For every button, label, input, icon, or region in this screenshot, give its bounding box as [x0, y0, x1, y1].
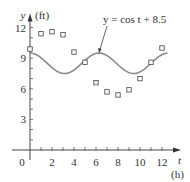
axes	[12, 14, 181, 161]
data-point	[160, 46, 164, 50]
data-point	[116, 93, 120, 97]
y-tick-label: 3	[21, 113, 27, 125]
y-axis-arrow-icon	[28, 14, 33, 22]
x-axis-unit: (h)	[171, 168, 184, 181]
y-tick-label: 6	[21, 83, 27, 95]
cosine-curve	[30, 53, 168, 73]
data-point	[50, 29, 54, 33]
data-point	[105, 90, 109, 94]
x-tick-label: 10	[135, 156, 147, 168]
y-tick-label: 12	[15, 22, 26, 34]
y-axis-unit: (ft)	[35, 9, 49, 22]
y-axis-label: y	[20, 9, 26, 21]
x-tick-label: 12	[157, 156, 168, 168]
origin-label: 0	[19, 156, 25, 168]
x-axis-label: t	[178, 154, 182, 166]
annotation-leader	[100, 26, 107, 49]
curve-equation-label: y = cos t + 8.5	[103, 13, 167, 25]
data-point	[61, 33, 65, 37]
data-point	[94, 80, 98, 84]
data-point	[39, 32, 43, 36]
data-point	[72, 50, 76, 54]
chart: 24681012369120y(ft)t(h)y = cos t + 8.5	[0, 0, 190, 182]
data-point	[127, 88, 131, 92]
data-point	[83, 60, 87, 64]
y-tick-label: 9	[21, 52, 27, 64]
x-tick-label: 2	[49, 156, 55, 168]
model-curve	[30, 53, 168, 73]
x-tick-label: 8	[115, 156, 121, 168]
data-point	[138, 76, 142, 80]
x-axis-arrow-icon	[173, 148, 181, 153]
data-point	[149, 60, 153, 64]
x-tick-label: 4	[71, 156, 77, 168]
data-point	[28, 47, 32, 51]
x-tick-label: 6	[93, 156, 99, 168]
